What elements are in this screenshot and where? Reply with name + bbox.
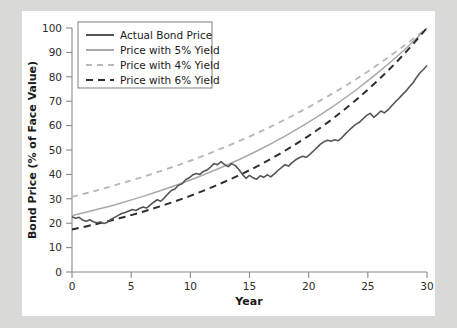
x-tick-label: 25 [361, 280, 374, 292]
y-axis-title: Bond Price (% of Face Value) [26, 61, 39, 239]
y-tick-label: 40 [49, 168, 62, 180]
x-tick-label: 20 [302, 280, 315, 292]
bond-price-line-chart: 0102030405060708090100 051015202530 Year… [22, 11, 435, 316]
legend-label: Actual Bond Price [120, 29, 212, 41]
chart-legend: Actual Bond PricePrice with 5% YieldPric… [78, 22, 220, 88]
y-tick-label: 50 [49, 144, 62, 156]
x-tick-label: 5 [128, 280, 135, 292]
y-tick-label: 10 [49, 241, 62, 253]
y-tick-label: 0 [55, 266, 62, 278]
legend-label: Price with 6% Yield [120, 74, 220, 86]
legend-label: Price with 4% Yield [120, 59, 220, 71]
x-axis-title: Year [234, 295, 263, 308]
x-tick-label: 10 [184, 280, 197, 292]
y-tick-label: 70 [49, 95, 62, 107]
y-tick-label: 100 [42, 22, 62, 34]
legend-label: Price with 5% Yield [120, 44, 220, 56]
chart-figure: 0102030405060708090100 051015202530 Year… [22, 11, 435, 316]
x-tick-label: 30 [420, 280, 433, 292]
x-tick-label: 0 [69, 280, 76, 292]
y-tick-label: 90 [49, 46, 62, 58]
y-tick-label: 60 [49, 119, 62, 131]
y-tick-label: 20 [49, 217, 62, 229]
x-tick-label: 15 [243, 280, 256, 292]
y-tick-label: 80 [49, 71, 62, 83]
y-tick-label: 30 [49, 193, 62, 205]
